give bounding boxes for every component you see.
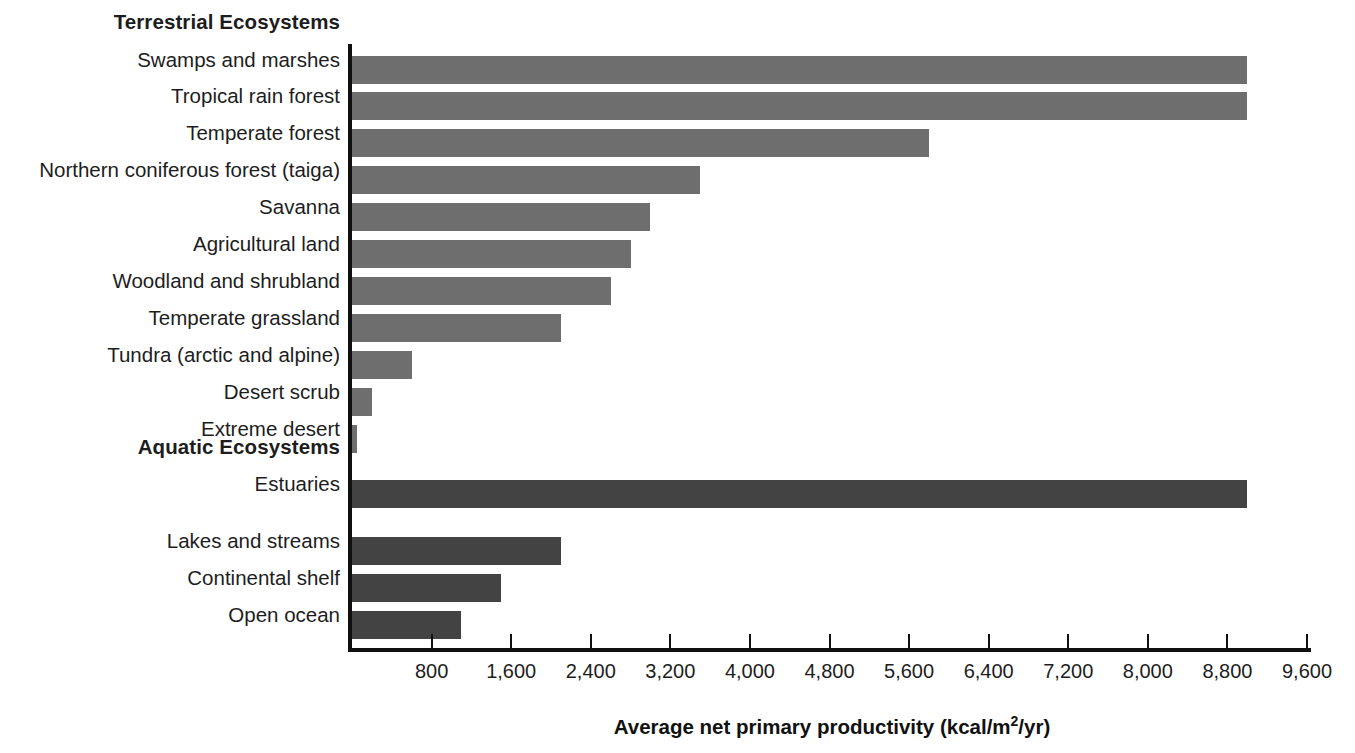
x-tick-mark [1147, 634, 1149, 648]
category-label: Open ocean [0, 605, 340, 626]
x-tick-mark [829, 634, 831, 648]
category-label: Estuaries [0, 474, 340, 495]
bar-aquatic [352, 537, 561, 565]
x-tick-label: 8,000 [1123, 660, 1173, 683]
x-tick-label: 5,600 [884, 660, 934, 683]
plot-area: 8001,6002,4003,2004,0004,8005,6006,4007,… [352, 44, 1312, 648]
category-label: Northern coniferous forest (taiga) [0, 160, 340, 181]
x-tick-label: 4,800 [804, 660, 854, 683]
x-tick-label: 9,600 [1282, 660, 1332, 683]
x-tick-mark [988, 634, 990, 648]
bar-chart: Terrestrial EcosystemsSwamps and marshes… [0, 0, 1355, 753]
category-label: Savanna [0, 197, 340, 218]
bar-terrestrial [352, 56, 1247, 84]
category-label: Temperate grassland [0, 308, 340, 329]
category-label: Lakes and streams [0, 531, 340, 552]
x-tick-mark [669, 634, 671, 648]
x-tick-mark [1306, 634, 1308, 648]
bar-terrestrial [352, 240, 631, 268]
group-header-label: Terrestrial Ecosystems [0, 12, 340, 33]
x-tick-mark [590, 634, 592, 648]
x-tick-mark [1067, 634, 1069, 648]
x-tick-label: 4,000 [725, 660, 775, 683]
bar-terrestrial [352, 166, 700, 194]
category-label: Desert scrub [0, 382, 340, 403]
x-axis-title-pre: Average net primary productivity (kcal/m [614, 715, 1011, 738]
group-header-label: Aquatic Ecosystems [0, 437, 340, 458]
bar-terrestrial [352, 388, 372, 416]
bar-terrestrial [352, 425, 357, 453]
x-tick-mark [431, 634, 433, 648]
bar-aquatic [352, 480, 1247, 508]
x-tick-mark [1226, 634, 1228, 648]
x-axis-title: Average net primary productivity (kcal/m… [352, 713, 1312, 739]
x-tick-mark [908, 634, 910, 648]
x-axis-line [348, 648, 1311, 652]
bar-aquatic [352, 611, 461, 639]
bar-terrestrial [352, 277, 611, 305]
category-label: Swamps and marshes [0, 50, 340, 71]
category-label: Temperate forest [0, 123, 340, 144]
bar-aquatic [352, 574, 501, 602]
x-tick-label: 8,800 [1202, 660, 1252, 683]
x-tick-label: 6,400 [964, 660, 1014, 683]
category-label: Woodland and shrubland [0, 271, 340, 292]
category-label: Tundra (arctic and alpine) [0, 345, 340, 366]
x-tick-label: 1,600 [486, 660, 536, 683]
x-tick-label: 7,200 [1043, 660, 1093, 683]
x-tick-label: 2,400 [566, 660, 616, 683]
bar-terrestrial [352, 92, 1247, 120]
bar-terrestrial [352, 203, 650, 231]
x-tick-mark [510, 634, 512, 648]
category-label: Agricultural land [0, 234, 340, 255]
x-tick-label: 3,200 [645, 660, 695, 683]
category-label: Continental shelf [0, 568, 340, 589]
category-label: Tropical rain forest [0, 86, 340, 107]
x-axis-title-post: /yr) [1018, 715, 1050, 738]
bar-terrestrial [352, 351, 412, 379]
x-tick-label: 800 [415, 660, 448, 683]
x-tick-mark [749, 634, 751, 648]
bar-terrestrial [352, 314, 561, 342]
bar-terrestrial [352, 129, 929, 157]
